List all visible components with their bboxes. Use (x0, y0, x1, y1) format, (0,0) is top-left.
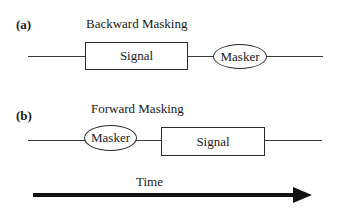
panel-a-signal-box: Signal (85, 42, 188, 70)
time-axis-label: Time (136, 175, 163, 188)
panel-b-masker-ellipse: Masker (84, 125, 137, 151)
time-arrow-shaft (33, 193, 295, 197)
time-arrow-head-icon (293, 187, 312, 203)
panel-b-signal-box: Signal (161, 127, 265, 156)
panel-a-masker-ellipse: Masker (213, 44, 267, 69)
panel-a-signal-label: Signal (120, 48, 153, 64)
panel-a-masker-label: Masker (221, 49, 260, 65)
panel-b-id: (b) (16, 109, 32, 122)
panel-a-id: (a) (16, 18, 31, 31)
panel-b-title: Forward Masking (91, 102, 184, 115)
panel-b-masker-label: Masker (91, 130, 130, 146)
masking-diagram: (a) Backward Masking Signal Masker (b) F… (0, 0, 338, 213)
panel-a-title: Backward Masking (86, 17, 187, 30)
panel-b-signal-label: Signal (196, 134, 229, 150)
